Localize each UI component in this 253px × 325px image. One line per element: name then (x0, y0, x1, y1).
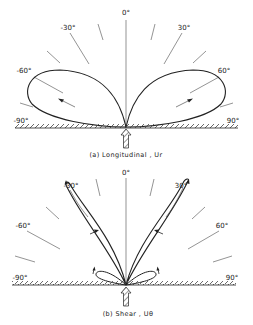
ground-hatch (15, 124, 238, 128)
main-lobe-left-inner (70, 190, 88, 217)
source-arrow-icon (121, 287, 131, 306)
guide-neg60 (34, 77, 63, 93)
label-neg90: -90° (14, 117, 29, 125)
guide-neg15 (98, 24, 103, 40)
guide-pos30 (164, 33, 182, 64)
label-pos90: 90° (227, 117, 239, 125)
direction-arrow-right (176, 99, 193, 108)
lobe-left (28, 70, 126, 127)
caption-b: (b) Shear , Uθ (103, 310, 154, 318)
label-neg30: -30° (61, 24, 76, 32)
label-pos60: 60° (218, 67, 230, 75)
guide-pos45 (192, 207, 205, 219)
label-pos30: 30° (178, 24, 190, 32)
label-neg30: -30° (64, 182, 79, 190)
source-arrow-icon (121, 129, 131, 148)
label-pos90: 90° (226, 274, 238, 282)
label-0deg: 0° (122, 9, 130, 17)
caption-a: (a) Longitudinal , Ur (89, 151, 162, 159)
direction-arrow-left (58, 99, 75, 108)
label-0deg: 0° (122, 169, 130, 177)
panel-a: 0° -30° 30° -60° 60° -90° 90° (a) Longit… (14, 9, 240, 159)
guide-neg60 (27, 231, 60, 249)
main-lobe-right-inner (166, 188, 183, 217)
guide-neg45 (47, 51, 60, 63)
label-pos60: 60° (216, 222, 228, 230)
arrow-side-left (93, 267, 96, 275)
guide-neg45 (46, 207, 59, 219)
guide-pos75 (213, 256, 232, 262)
guide-pos60 (188, 231, 219, 249)
label-neg60: -60° (16, 222, 31, 230)
ground-hatch (12, 281, 236, 285)
label-neg60: -60° (17, 67, 32, 75)
label-neg90: -90° (13, 274, 28, 282)
lobe-right (126, 70, 225, 127)
panel-b: 0° -30° 30° -60° 60° -90° 90° (b) Shear … (12, 169, 238, 318)
angle-guides (20, 20, 233, 127)
guide-neg75 (15, 256, 35, 262)
guide-neg15 (96, 179, 100, 196)
guide-pos15 (150, 179, 154, 196)
guide-pos60 (190, 77, 219, 93)
guide-pos45 (193, 51, 206, 63)
arrow-main-right (154, 230, 163, 235)
angle-guides (15, 178, 232, 285)
arrow-main-left (90, 230, 99, 235)
guide-pos15 (151, 24, 155, 40)
radiation-pattern-figure: 0° -30° 30° -60° 60° -90° 90° (a) Longit… (0, 0, 253, 325)
label-pos30: 30° (175, 182, 187, 190)
guide-neg30 (70, 33, 89, 64)
arrow-side-right (157, 267, 160, 275)
